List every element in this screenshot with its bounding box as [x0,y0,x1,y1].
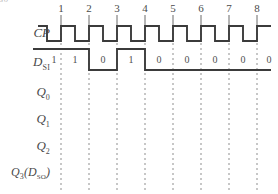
pulse-number-1: 1 [54,2,68,14]
signal-label-q1: Q1 [6,111,50,129]
signal-label-q0: Q0 [6,84,50,102]
pulse-number-6: 6 [194,2,208,14]
signal-label-q1-sub: 1 [46,120,50,129]
pulse-number-2: 2 [82,2,96,14]
pulse-number-3: 3 [110,2,124,14]
signal-label-q0-sub: 0 [46,93,50,102]
signal-label-dsi: DSI [6,54,50,72]
pulse-number-8: 8 [250,2,264,14]
pulse-number-7: 7 [222,2,236,14]
dsi-bit-7: 0 [236,54,250,65]
dsi-bit-1: 1 [68,54,82,65]
pulse-ticks [61,15,257,26]
signal-label-q3-base: Q [11,165,20,179]
pulse-number-4: 4 [138,2,152,14]
dsi-bit-3: 1 [124,54,138,65]
dsi-bit-5: 0 [180,54,194,65]
signal-label-q0-base: Q [36,84,45,99]
dsi-bit-8: 0 [262,54,276,65]
dsi-bit-0: 1 [47,54,61,65]
signal-label-q2: Q2 [6,138,50,156]
signal-label-cp: CP [6,25,50,41]
dsi-bit-4: 0 [152,54,166,65]
signal-label-q3-paren-sub: SO [37,173,46,181]
signal-label-q2-sub: 2 [46,147,50,156]
signal-label-q1-base: Q [36,111,45,126]
signal-label-q3-paren-base: D [28,165,37,179]
dsi-bit-6: 0 [208,54,222,65]
timing-diagram-figure: so CP [0,0,278,194]
signal-label-q3: Q3(DSO) [2,165,50,181]
pulse-number-5: 5 [166,2,180,14]
cp-waveform [38,26,271,41]
signal-label-cp-base: CP [33,25,50,40]
signal-label-q2-base: Q [36,138,45,153]
gridlines [61,28,257,190]
dsi-bit-2: 0 [96,54,110,65]
